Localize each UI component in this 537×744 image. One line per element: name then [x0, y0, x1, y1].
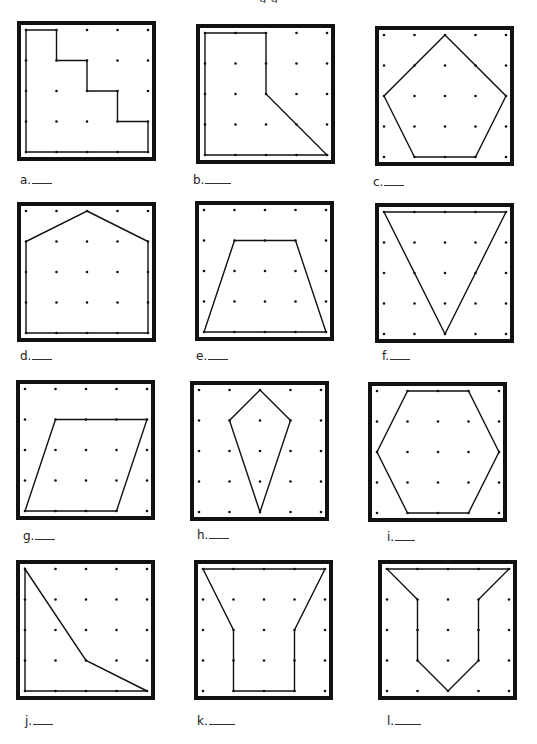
answer-blank[interactable]	[395, 714, 421, 725]
geoboard-figure-d	[17, 202, 156, 342]
grid-peg	[232, 598, 235, 601]
grid-peg	[474, 64, 477, 67]
grid-peg	[228, 511, 231, 514]
answer-blank[interactable]	[205, 173, 231, 184]
grid-peg	[413, 64, 416, 67]
grid-peg	[413, 211, 416, 214]
grid-peg	[324, 568, 327, 571]
grid-peg	[498, 512, 501, 515]
grid-peg	[25, 210, 28, 213]
grid-peg	[505, 156, 508, 159]
grid-peg	[498, 481, 501, 484]
grid-peg	[234, 32, 237, 35]
grid-peg	[146, 659, 149, 662]
grid-peg	[467, 390, 470, 393]
grid-peg	[325, 300, 328, 303]
answer-blank[interactable]	[32, 349, 52, 360]
grid-peg	[55, 240, 58, 243]
label-letter: k.	[197, 714, 208, 728]
grid-peg	[146, 418, 149, 421]
answer-blank[interactable]	[35, 529, 55, 540]
grid-peg	[259, 480, 262, 483]
grid-peg	[293, 659, 296, 662]
grid-peg	[264, 331, 267, 334]
grid-peg	[25, 240, 28, 243]
grid-peg	[146, 690, 149, 693]
grid-peg	[198, 450, 201, 453]
grid-peg	[85, 598, 88, 601]
grid-peg	[54, 449, 57, 452]
grid-peg	[474, 156, 477, 159]
grid-peg	[263, 690, 266, 693]
grid-peg	[437, 420, 440, 423]
grid-peg	[376, 481, 379, 484]
grid-peg	[467, 420, 470, 423]
grid-peg	[55, 271, 58, 274]
grid-peg	[386, 629, 389, 632]
answer-blank[interactable]	[33, 714, 53, 725]
answer-blank[interactable]	[209, 714, 235, 725]
grid-peg	[444, 333, 447, 336]
grid-peg	[86, 29, 89, 32]
grid-peg	[416, 629, 419, 632]
grid-peg	[416, 568, 419, 571]
grid-peg	[265, 32, 268, 35]
grid-peg	[202, 568, 205, 571]
geoboard-figure-f	[375, 203, 514, 343]
answer-blank[interactable]	[208, 349, 228, 360]
grid-peg	[54, 690, 57, 693]
grid-peg	[25, 332, 28, 335]
grid-peg	[295, 93, 298, 96]
grid-peg	[116, 90, 119, 93]
grid-peg	[383, 211, 386, 214]
grid-peg	[383, 241, 386, 244]
grid-peg	[383, 64, 386, 67]
grid-peg	[326, 154, 329, 157]
answer-blank[interactable]	[32, 173, 52, 184]
grid-peg	[474, 95, 477, 98]
grid-peg	[324, 629, 327, 632]
grid-peg	[115, 510, 118, 513]
grid-peg	[24, 479, 27, 482]
grid-peg	[505, 95, 508, 98]
grid-peg	[147, 301, 150, 304]
grid-peg	[116, 120, 119, 123]
grid-peg	[386, 598, 389, 601]
grid-peg	[232, 690, 235, 693]
grid-peg	[413, 34, 416, 37]
grid-peg	[505, 272, 508, 275]
geoboard-d	[17, 202, 156, 342]
geoboard-a	[17, 21, 156, 161]
grid-peg	[386, 568, 389, 571]
grid-peg	[474, 241, 477, 244]
answer-blank[interactable]	[209, 528, 229, 539]
grid-peg	[55, 29, 58, 32]
answer-label-b: b.	[193, 173, 231, 187]
geoboard-k	[194, 560, 333, 700]
grid-peg	[386, 690, 389, 693]
grid-peg	[232, 568, 235, 571]
grid-peg	[508, 690, 511, 693]
geoboard-h	[190, 381, 329, 521]
answer-label-f: f.	[382, 349, 410, 363]
answer-blank[interactable]	[384, 175, 404, 186]
grid-peg	[232, 659, 235, 662]
grid-peg	[146, 568, 149, 571]
grid-peg	[116, 240, 119, 243]
label-letter: d.	[20, 349, 31, 363]
grid-peg	[294, 270, 297, 273]
grid-peg	[86, 210, 89, 213]
grid-peg	[326, 62, 329, 65]
grid-peg	[444, 125, 447, 128]
grid-peg	[85, 510, 88, 513]
grid-peg	[204, 62, 207, 65]
answer-blank[interactable]	[390, 349, 410, 360]
answer-label-h: h.	[197, 528, 229, 542]
grid-peg	[203, 239, 206, 242]
grid-peg	[467, 512, 470, 515]
grid-peg	[406, 390, 409, 393]
grid-peg	[320, 450, 323, 453]
answer-blank[interactable]	[395, 530, 415, 541]
grid-peg	[324, 690, 327, 693]
grid-peg	[444, 156, 447, 159]
